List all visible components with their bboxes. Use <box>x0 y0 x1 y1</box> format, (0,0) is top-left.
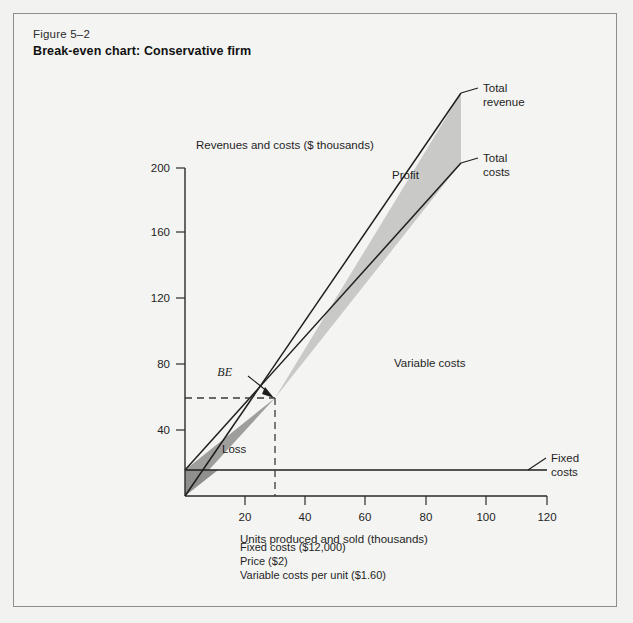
footnote-price: Price ($2) <box>240 555 288 567</box>
total-revenue-line <box>185 93 461 496</box>
x-tick-label-120: 120 <box>537 511 556 523</box>
y-tick-label-200: 200 <box>151 162 170 174</box>
x-tick-label-80: 80 <box>420 511 433 523</box>
x-tick-label-40: 40 <box>299 511 312 523</box>
x-tick-label-60: 60 <box>359 511 372 523</box>
break-even-label: BE <box>217 365 232 379</box>
x-tick-label-20: 20 <box>239 511 252 523</box>
x-tick-label-100: 100 <box>476 511 495 523</box>
fixed-costs-leader-line <box>528 458 546 470</box>
fixed-costs-label-line2: costs <box>551 466 578 478</box>
total-revenue-leader-line <box>461 88 478 93</box>
y-tick-label-120: 120 <box>151 292 170 304</box>
loss-label: Loss <box>222 443 247 455</box>
total-costs-leader-line <box>461 158 478 163</box>
y-axis-title: Revenues and costs ($ thousands) <box>196 139 374 151</box>
y-tick-label-160: 160 <box>151 226 170 238</box>
break-even-chart: 200 160 120 80 40 20 40 60 80 100 120 Re… <box>0 0 633 623</box>
y-tick-label-40: 40 <box>157 424 170 436</box>
variable-costs-label: Variable costs <box>394 357 466 369</box>
figure-root: Figure 5–2 Break-even chart: Conservativ… <box>0 0 633 623</box>
profit-label: Profit <box>392 169 420 181</box>
total-costs-label-line1: Total <box>483 152 507 164</box>
total-revenue-label-line1: Total <box>483 82 507 94</box>
y-tick-label-80: 80 <box>157 358 170 370</box>
fixed-costs-label-line1: Fixed <box>551 452 579 464</box>
total-revenue-label-line2: revenue <box>483 96 525 108</box>
loss-region-below-fixed <box>185 470 218 496</box>
total-costs-line <box>185 163 461 470</box>
footnote-variable-costs: Variable costs per unit ($1.60) <box>240 569 386 581</box>
total-costs-label-line2: costs <box>483 166 510 178</box>
footnote-fixed-costs: Fixed costs ($12,000) <box>240 541 346 553</box>
